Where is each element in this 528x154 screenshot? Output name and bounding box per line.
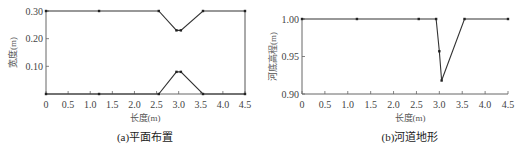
data-point [180,71,182,73]
data-point [418,18,420,20]
x-tick-label: 2.0 [387,99,400,110]
data-point [98,10,100,12]
data-point [45,10,47,12]
y-axis-title: 河底高程(m) [267,32,278,81]
data-point [507,18,509,20]
x-tick-label: 3.0 [433,99,446,110]
x-tick-label: 0 [300,99,305,110]
data-point [435,18,437,20]
x-tick-label: 1.5 [364,99,377,110]
data-point [202,10,204,12]
figure: 00.51.01.52.02.53.03.54.04.50.100.200.30… [0,0,528,154]
x-axis-title: 长度(m) [395,112,426,123]
data-point [202,93,204,95]
x-tick-label: 2.5 [410,99,423,110]
data-point [158,93,160,95]
data-point [438,50,440,52]
x-tick-label: 4.0 [479,99,492,110]
data-point [158,10,160,12]
y-tick-label: 0.10 [26,61,44,72]
x-tick-label: 3.0 [172,99,185,110]
y-tick-label: 0.20 [26,33,44,44]
x-tick-label: 1.5 [106,99,119,110]
data-point [98,93,100,95]
y-tick-label: 0.95 [282,51,300,62]
data-point [180,29,182,31]
chart-caption: (a)平面布置 [117,131,173,144]
series-line-upper-bank [46,11,245,30]
data-point [440,79,442,81]
data-point [463,18,465,20]
chart-caption: (b)河道地形 [382,130,439,144]
data-point [45,93,47,95]
x-tick-label: 0.5 [62,99,75,110]
data-point [301,18,303,20]
x-tick-label: 0.5 [319,99,332,110]
data-point [175,29,177,31]
y-tick-label: 0.90 [282,89,300,100]
x-axis-title: 长度(m) [130,112,161,123]
x-tick-label: 0 [44,99,49,110]
x-tick-label: 3.5 [195,99,208,110]
x-tick-label: 3.5 [456,99,469,110]
data-point [244,10,246,12]
chart-river-terrain: 00.51.01.52.02.53.03.54.04.50.900.951.00… [267,14,514,145]
series-line-lower-bank [46,72,245,94]
x-tick-label: 4.5 [502,99,515,110]
y-tick-label: 1.00 [282,14,300,25]
y-tick-label: 0.30 [26,6,44,17]
data-point [175,71,177,73]
y-axis-title: 宽度(m) [7,37,18,68]
data-point [356,18,358,20]
x-tick-label: 2.5 [150,99,163,110]
chart-plan-layout: 00.51.01.52.02.53.03.54.04.50.100.200.30… [7,6,251,145]
x-tick-label: 2.0 [128,99,141,110]
data-point [244,93,246,95]
x-tick-label: 4.0 [217,99,230,110]
x-tick-label: 1.0 [342,99,355,110]
x-tick-label: 4.5 [239,99,252,110]
x-tick-label: 1.0 [84,99,97,110]
series-line-bed-elevation [302,19,508,81]
